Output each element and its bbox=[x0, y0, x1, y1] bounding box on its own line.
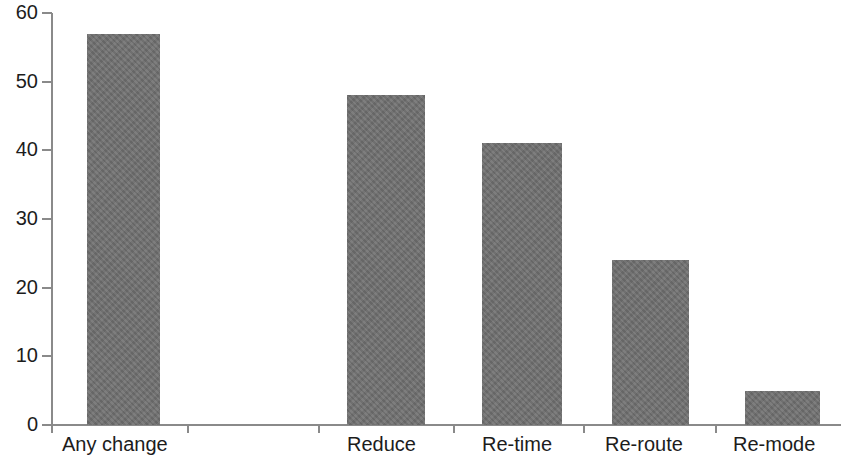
y-tick-label-text: 50 bbox=[2, 71, 38, 91]
x-tick-mark bbox=[187, 424, 189, 433]
y-tick-label-text: 30 bbox=[2, 208, 38, 228]
x-tick-mark bbox=[318, 424, 320, 433]
y-tick-label: 30 bbox=[0, 208, 38, 228]
category-label: Reduce bbox=[347, 432, 416, 456]
bar bbox=[482, 143, 562, 425]
y-tick-label-text: 40 bbox=[2, 139, 38, 159]
y-tick-label: 40 bbox=[0, 139, 38, 159]
y-tick-label: 20 bbox=[0, 277, 38, 297]
bar bbox=[612, 260, 689, 425]
category-label: Re-route bbox=[605, 432, 683, 456]
x-tick-mark bbox=[715, 424, 717, 433]
y-tick-mark bbox=[42, 355, 52, 357]
x-tick-mark bbox=[583, 424, 585, 433]
bar bbox=[347, 95, 425, 425]
category-label: Re-time bbox=[482, 432, 552, 456]
bar bbox=[87, 34, 160, 425]
y-tick-label-text: 20 bbox=[2, 277, 38, 297]
x-axis-line bbox=[46, 424, 841, 426]
category-label: Re-mode bbox=[733, 432, 815, 456]
category-label: Any change bbox=[62, 432, 168, 456]
x-tick-mark bbox=[453, 424, 455, 433]
y-tick-label-text: 10 bbox=[2, 345, 38, 365]
bar-chart: 0102030405060 Any changeReduceRe-timeRe-… bbox=[0, 0, 841, 460]
x-tick-mark bbox=[51, 424, 53, 433]
y-tick-label-text: 0 bbox=[2, 414, 38, 434]
y-tick-label: 10 bbox=[0, 345, 38, 365]
y-tick-label: 50 bbox=[0, 71, 38, 91]
plot-area: 0102030405060 Any changeReduceRe-timeRe-… bbox=[0, 0, 841, 460]
y-tick-label: 60 bbox=[0, 2, 38, 22]
y-tick-mark bbox=[42, 287, 52, 289]
y-tick-mark bbox=[42, 81, 52, 83]
y-tick-label: 0 bbox=[0, 414, 38, 434]
bar bbox=[745, 391, 820, 425]
y-tick-label-text: 60 bbox=[2, 2, 38, 22]
y-tick-mark bbox=[42, 149, 52, 151]
y-tick-mark bbox=[42, 12, 52, 14]
y-tick-mark bbox=[42, 218, 52, 220]
